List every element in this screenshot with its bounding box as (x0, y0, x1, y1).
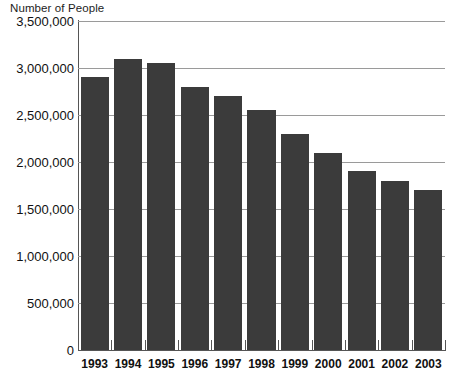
x-axis-tick-label: 2001 (345, 357, 378, 371)
bar-chart: Number of People 0500,0001,000,0001,500,… (0, 0, 453, 388)
y-axis-tick-label: 1,500,000 (2, 202, 74, 217)
x-axis-line (78, 350, 446, 351)
bar (381, 181, 409, 350)
x-axis-tick-label: 1993 (78, 357, 111, 371)
y-axis-tick-label: 500,000 (2, 296, 74, 311)
x-axis-tick-mark (312, 340, 313, 351)
x-axis-tick-mark (78, 340, 79, 351)
y-axis-tick-label: 3,500,000 (2, 14, 74, 29)
x-axis-tick-label: 1997 (211, 357, 244, 371)
bar (314, 153, 342, 350)
x-axis-tick-label: 2000 (312, 357, 345, 371)
x-axis-tick-mark (245, 340, 246, 351)
bar (281, 134, 309, 350)
y-axis-tick-labels: 0500,0001,000,0001,500,0002,000,0002,500… (0, 0, 74, 388)
y-axis-tick-label: 2,000,000 (2, 155, 74, 170)
x-axis-tick-label: 1994 (111, 357, 144, 371)
x-axis-tick-label: 1996 (178, 357, 211, 371)
x-axis-tick-mark (345, 340, 346, 351)
x-axis-tick-mark (278, 340, 279, 351)
x-axis-tick-label: 2003 (412, 357, 445, 371)
bar (247, 110, 275, 350)
x-axis-tick-mark (178, 340, 179, 351)
bar (214, 96, 242, 350)
y-axis-tick-label: 3,000,000 (2, 61, 74, 76)
bar (181, 87, 209, 350)
bar (348, 171, 376, 350)
y-axis-tick-label: 1,000,000 (2, 249, 74, 264)
x-axis-tick-label: 2002 (378, 357, 411, 371)
plot-area (78, 21, 445, 350)
bar (147, 63, 175, 350)
x-axis-tick-mark (445, 340, 446, 351)
x-axis-tick-mark (211, 340, 212, 351)
x-axis-tick-label: 1998 (245, 357, 278, 371)
y-axis-tick-label: 2,500,000 (2, 108, 74, 123)
x-axis-tick-mark (111, 340, 112, 351)
bar (114, 59, 142, 350)
x-axis-tick-label: 1999 (278, 357, 311, 371)
x-axis-tick-mark (412, 340, 413, 351)
y-axis-tick-label: 0 (2, 343, 74, 358)
bar (414, 190, 442, 350)
x-axis-tick-label: 1995 (145, 357, 178, 371)
x-axis-tick-mark (378, 340, 379, 351)
bar (81, 77, 109, 350)
x-axis-tick-mark (145, 340, 146, 351)
gridline (78, 21, 445, 22)
